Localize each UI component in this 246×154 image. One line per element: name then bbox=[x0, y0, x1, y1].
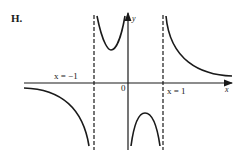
asymptote-left-label: x = −1 bbox=[54, 72, 78, 81]
curve-left-branch bbox=[24, 88, 89, 146]
y-axis-label: y bbox=[132, 15, 136, 23]
curve-lower-middle-branch bbox=[131, 113, 160, 146]
curve-right-branch bbox=[166, 16, 232, 76]
asymptote-right-label: x = 1 bbox=[167, 87, 186, 96]
graph-figure bbox=[0, 0, 246, 154]
panel-label: H. bbox=[11, 13, 22, 24]
origin-label: 0 bbox=[121, 84, 126, 93]
curve-upper-middle-branch bbox=[97, 16, 125, 50]
x-axis-label: x bbox=[225, 86, 229, 94]
